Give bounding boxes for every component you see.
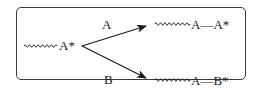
arrow-to-product-b (82, 46, 146, 78)
wavy-chain-left (24, 45, 57, 48)
product-a-label: A—A* (191, 17, 229, 32)
wavy-chain-top (155, 23, 190, 26)
arrow-to-product-a (82, 26, 146, 46)
reagent-label-b: B (104, 72, 113, 87)
product-b-label: A—B* (191, 73, 229, 88)
wavy-chain-bottom (155, 79, 190, 82)
reagent-label-a: A (102, 17, 112, 32)
reaction-scheme: A* A B A—A* A—B* (0, 0, 257, 88)
reactant-label: A* (59, 38, 75, 53)
